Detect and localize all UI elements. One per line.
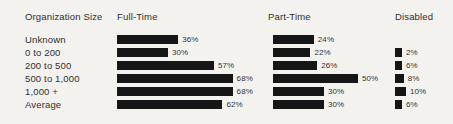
bar-value-part-time: 26% — [321, 60, 337, 71]
chart-row: Unknown36%24% — [0, 33, 453, 46]
bar-value-disabled: 8% — [408, 73, 420, 84]
row-label-unknown: Unknown — [25, 33, 66, 46]
column-header-full-time: Full-Time — [117, 11, 158, 22]
chart-row: 0 to 20030%22%2% — [0, 46, 453, 59]
bar-value-full-time: 62% — [226, 99, 242, 110]
bar-full-time — [117, 87, 233, 96]
bar-full-time — [117, 48, 168, 57]
row-label-1-000: 1,000 + — [25, 85, 58, 98]
row-label-500-to-1-000: 500 to 1,000 — [25, 72, 80, 85]
chart-rows: Unknown36%24%0 to 20030%22%2%200 to 5005… — [0, 33, 453, 111]
chart-row: 200 to 50057%26%6% — [0, 59, 453, 72]
bar-value-full-time: 57% — [218, 60, 234, 71]
bar-part-time — [273, 100, 324, 109]
column-header-part-time: Part-Time — [268, 11, 311, 22]
bar-value-part-time: 22% — [314, 47, 330, 58]
bar-value-disabled: 10% — [410, 86, 426, 97]
bar-disabled — [395, 48, 402, 57]
bar-part-time — [273, 87, 324, 96]
bar-full-time — [117, 35, 178, 44]
bar-value-part-time: 30% — [328, 99, 344, 110]
bar-part-time — [273, 61, 317, 70]
bar-value-part-time: 30% — [328, 86, 344, 97]
bar-value-full-time: 30% — [172, 47, 188, 58]
chart-row: Average62%30%6% — [0, 98, 453, 111]
bar-disabled — [395, 100, 402, 109]
bar-value-disabled: 2% — [406, 47, 418, 58]
bar-chart: Organization Size Full-Time Part-Time Di… — [0, 0, 453, 124]
chart-row: 500 to 1,00068%50%8% — [0, 72, 453, 85]
bar-value-part-time: 24% — [318, 34, 334, 45]
bar-full-time — [117, 100, 222, 109]
column-header-organization-size: Organization Size — [25, 11, 103, 22]
bar-value-full-time: 68% — [237, 73, 253, 84]
bar-value-part-time: 50% — [362, 73, 378, 84]
column-header-disabled: Disabled — [395, 11, 433, 22]
bar-disabled — [395, 74, 404, 83]
bar-part-time — [273, 48, 310, 57]
bar-disabled — [395, 61, 402, 70]
bar-part-time — [273, 74, 358, 83]
bar-part-time — [273, 35, 314, 44]
bar-value-full-time: 68% — [237, 86, 253, 97]
bar-full-time — [117, 74, 233, 83]
bar-value-full-time: 36% — [182, 34, 198, 45]
chart-row: 1,000 +68%30%10% — [0, 85, 453, 98]
bar-disabled — [395, 87, 406, 96]
row-label-200-to-500: 200 to 500 — [25, 59, 71, 72]
bar-value-disabled: 6% — [406, 60, 418, 71]
bar-full-time — [117, 61, 214, 70]
row-label-average: Average — [25, 98, 61, 111]
bar-value-disabled: 6% — [406, 99, 418, 110]
row-label-0-to-200: 0 to 200 — [25, 46, 61, 59]
